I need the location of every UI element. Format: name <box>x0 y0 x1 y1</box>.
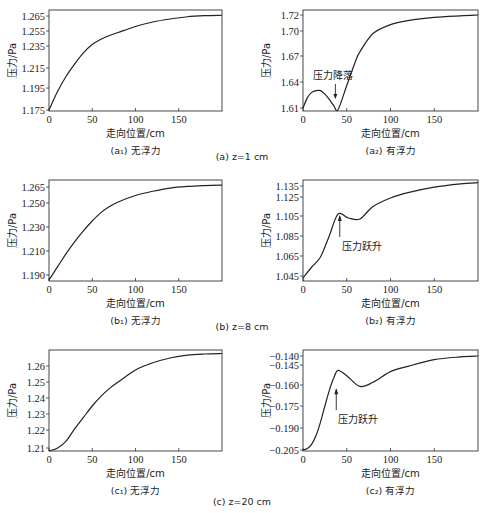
y-tick-label: −0.160 <box>269 380 299 391</box>
x-axis-label: 走向位置/cm <box>361 297 420 309</box>
x-tick-label: 100 <box>383 114 399 125</box>
x-axis-label: 走向位置/cm <box>361 467 420 479</box>
panel-caption: (c₁) 无浮力 <box>111 485 160 496</box>
x-tick-label: 150 <box>171 284 187 295</box>
x-tick-label: 150 <box>426 284 442 295</box>
y-tick-label: 1.175 <box>21 105 45 116</box>
arrow-up-icon <box>334 388 338 394</box>
annotation-label: 压力跃升 <box>338 413 378 425</box>
arrow-up-icon <box>338 215 342 221</box>
y-tick-label: 1.25 <box>27 377 45 388</box>
pressure-curve <box>49 15 222 110</box>
pressure-curve <box>303 183 478 278</box>
annotation-label: 压力降落 <box>313 69 353 81</box>
x-tick-label: 0 <box>46 284 51 295</box>
x-tick-label: 50 <box>87 284 98 295</box>
y-tick-label: 1.215 <box>21 63 45 74</box>
plot-frame <box>49 10 222 111</box>
y-axis-label: 压力/Pa <box>6 43 18 78</box>
y-tick-label: 1.105 <box>275 211 299 222</box>
pressure-curve <box>303 15 478 111</box>
annotation-label: 压力跃升 <box>342 240 382 252</box>
y-axis-label: 压力/Pa <box>6 213 18 248</box>
y-tick-label: 1.235 <box>21 41 45 52</box>
y-tick-label: 1.72 <box>281 10 299 21</box>
y-tick-label: 1.255 <box>21 26 45 37</box>
panel-caption: (a₁) 无浮力 <box>110 145 160 156</box>
x-tick-label: 100 <box>128 114 144 125</box>
x-axis-label: 走向位置/cm <box>361 127 420 139</box>
x-tick-label: 0 <box>46 114 51 125</box>
y-tick-label: 1.125 <box>275 192 299 203</box>
plot-frame <box>303 180 478 281</box>
x-axis-label: 走向位置/cm <box>106 467 165 479</box>
pressure-curve <box>49 185 222 280</box>
y-tick-label: 1.230 <box>21 222 45 233</box>
plot-frame <box>49 350 222 451</box>
y-tick-label: 1.22 <box>27 425 45 436</box>
x-axis-label: 走向位置/cm <box>106 127 165 139</box>
y-tick-label: −0.175 <box>269 401 299 412</box>
x-tick-label: 50 <box>87 454 98 465</box>
x-tick-label: 50 <box>342 284 353 295</box>
panel-a1: 1.1751.1951.2151.2351.2551.265050100150走… <box>6 10 222 156</box>
y-tick-label: 1.23 <box>27 409 45 420</box>
x-tick-label: 50 <box>87 114 98 125</box>
x-tick-label: 150 <box>171 454 187 465</box>
y-tick-label: 1.21 <box>27 443 45 454</box>
x-tick-label: 150 <box>426 114 442 125</box>
pressure-curve <box>303 356 478 450</box>
x-tick-label: 100 <box>128 454 144 465</box>
y-tick-label: 1.250 <box>21 198 45 209</box>
x-tick-label: 150 <box>426 454 442 465</box>
y-tick-label: 1.24 <box>27 393 46 404</box>
y-axis-label: 压力/Pa <box>260 383 272 418</box>
x-axis-label: 走向位置/cm <box>106 297 165 309</box>
y-tick-label: 1.135 <box>275 181 299 192</box>
y-tick-label: 1.190 <box>21 270 45 281</box>
y-tick-label: −0.205 <box>269 445 299 456</box>
y-tick-label: 1.085 <box>275 231 299 242</box>
y-tick-label: −0.190 <box>269 423 299 434</box>
arrow-down-icon <box>333 94 337 99</box>
panel-b1: 1.1901.2101.2301.2501.265050100150走向位置/c… <box>6 180 222 326</box>
y-tick-label: 1.265 <box>21 11 45 22</box>
panel-c1: 1.211.221.231.241.251.26050100150走向位置/cm… <box>6 350 222 496</box>
group-caption-b: (b) z=8 cm <box>216 321 269 332</box>
panel-b2: 1.0451.0651.0851.1051.1251.135050100150走… <box>260 180 478 326</box>
x-tick-label: 0 <box>300 114 305 125</box>
y-tick-label: 1.70 <box>281 26 299 37</box>
plot-frame <box>303 350 478 451</box>
y-tick-label: 1.065 <box>275 251 299 262</box>
y-tick-label: 1.210 <box>21 246 45 257</box>
panel-a2: 1.611.641.671.701.72050100150走向位置/cm压力/P… <box>260 10 478 157</box>
x-tick-label: 0 <box>300 454 305 465</box>
y-axis-label: 压力/Pa <box>6 383 18 418</box>
y-tick-label: 1.26 <box>27 361 45 372</box>
panel-c2: −0.205−0.190−0.175−0.160−0.145−0.1400501… <box>260 350 478 496</box>
y-tick-label: 1.045 <box>275 271 299 282</box>
x-tick-label: 150 <box>171 114 187 125</box>
x-tick-label: 50 <box>342 114 353 125</box>
panel-caption: (b₁) 无浮力 <box>110 315 160 326</box>
x-tick-label: 100 <box>383 454 399 465</box>
y-axis-label: 压力/Pa <box>260 213 272 248</box>
y-axis-label: 压力/Pa <box>260 43 272 78</box>
y-tick-label: 1.64 <box>281 77 300 88</box>
x-tick-label: 100 <box>383 284 399 295</box>
x-tick-label: 0 <box>300 284 305 295</box>
pressure-curve <box>49 354 222 451</box>
y-tick-label: 1.67 <box>281 51 299 62</box>
panel-caption: (c₂) 有浮力 <box>366 485 415 496</box>
group-caption-a: (a) z=1 cm <box>216 151 269 162</box>
x-tick-label: 0 <box>46 454 51 465</box>
x-tick-label: 50 <box>342 454 353 465</box>
x-tick-label: 100 <box>128 284 144 295</box>
y-tick-label: 1.61 <box>281 103 299 114</box>
y-tick-label: 1.265 <box>21 182 45 193</box>
y-tick-label: −0.140 <box>269 351 299 362</box>
panel-caption: (b₂) 有浮力 <box>365 315 415 326</box>
figure-canvas: 1.1751.1951.2151.2351.2551.265050100150走… <box>0 0 484 513</box>
panel-caption: (a₂) 有浮力 <box>365 145 415 156</box>
group-caption-c: (c) z=20 cm <box>213 496 271 507</box>
